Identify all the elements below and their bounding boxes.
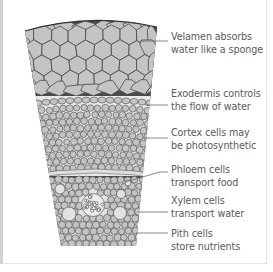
exodermis-cell [154, 101, 162, 107]
pith-cell [47, 227, 54, 234]
cortex-cell [140, 140, 147, 147]
cortex-cell [87, 105, 94, 112]
cortex-cell [31, 147, 37, 153]
cortex-cell [113, 125, 119, 131]
pith-cell [139, 241, 146, 248]
label-xylem: Xylem cells transport water [171, 195, 244, 220]
cortex-cell [137, 119, 144, 126]
pith-cell [150, 196, 156, 202]
cortex-cell [123, 158, 129, 164]
cortex-cell [46, 107, 52, 113]
cortex-cell [129, 133, 136, 140]
cortex-cell [36, 128, 42, 134]
pith-cell [33, 203, 40, 210]
label-velamen-line1: Velamen absorbs [171, 31, 263, 44]
label-phloem: Phloem cells transport food [171, 164, 238, 189]
cortex-cell [102, 104, 109, 111]
cortex-cell [116, 131, 123, 138]
cortex-cell [53, 106, 59, 112]
exodermis-cell [114, 98, 122, 104]
cortex-cell [81, 158, 88, 165]
pith-cell [128, 196, 135, 203]
pith-cell [26, 177, 33, 184]
cortex-cell [147, 154, 154, 161]
pith-cell [75, 176, 83, 184]
cortex-cell [74, 105, 80, 111]
pith-cell [75, 228, 82, 235]
cortex-cell [60, 158, 66, 164]
cortex-cell [42, 126, 49, 133]
cortex-cell [101, 157, 108, 164]
cortex-cell [67, 145, 74, 152]
cortex-cell [116, 145, 123, 152]
pith-cell [86, 183, 93, 190]
label-pith: Pith cells store nutrients [171, 228, 240, 253]
cortex-cell [105, 112, 111, 118]
pith-cell [114, 183, 121, 190]
cortex-cell [154, 155, 161, 162]
cortex-cell [154, 141, 161, 148]
cortex-cell [25, 149, 31, 155]
cortex-cell [25, 136, 31, 142]
exodermis-cell [98, 97, 106, 103]
cortex-cell [112, 152, 118, 158]
pith-cell [41, 215, 48, 222]
cortex-cell [108, 158, 115, 165]
cortex-cell [115, 105, 122, 112]
pith-cell [152, 189, 160, 197]
exodermis-cell [122, 98, 130, 104]
cortex-cell [59, 146, 65, 152]
pith-cell [69, 190, 75, 196]
exodermis-cell [82, 97, 90, 103]
pith-cell [89, 241, 96, 248]
pith-cell [83, 215, 89, 221]
exodermis-cell [34, 100, 42, 106]
cortex-cell [36, 154, 42, 160]
exodermis-cell [138, 99, 146, 105]
cortex-cell [49, 139, 56, 146]
cortex-cell [47, 159, 53, 165]
pith-cell [125, 241, 132, 248]
cortex-cell [80, 131, 86, 137]
cortex-cell [87, 144, 94, 151]
pith-cell [44, 183, 51, 190]
cortex-cell [150, 161, 157, 168]
exodermis-cell [58, 98, 66, 104]
pith-cell [47, 215, 54, 222]
cortex-cell [39, 134, 45, 140]
cortex-cell [144, 134, 150, 140]
cortex-cell [74, 158, 81, 165]
pith-cell [146, 240, 153, 247]
cortex-cell [134, 113, 141, 120]
cortex-cell [105, 124, 112, 131]
cortex-cell [122, 119, 129, 126]
pith-cell [136, 221, 143, 228]
label-velamen: Velamen absorbs water like a sponge [171, 31, 263, 56]
phloem-cell [88, 203, 91, 206]
cortex-cell [129, 105, 136, 112]
cortex-cell [105, 138, 112, 145]
pith-cell [68, 227, 75, 234]
cortex-cell [59, 132, 66, 139]
pith-cell [26, 190, 33, 197]
pith-cell [54, 216, 61, 223]
pith-cell [153, 202, 160, 209]
pith-cell [30, 209, 37, 216]
pith-cell [41, 228, 48, 235]
pith-cell [48, 202, 55, 209]
exodermis-cell [50, 99, 58, 105]
cortex-cell [108, 145, 114, 151]
pith-cell [117, 176, 124, 183]
pith-cell [128, 209, 135, 216]
cortex-cell [53, 133, 59, 139]
cortex-cell [43, 140, 49, 146]
cortex-cell [73, 131, 80, 138]
cortex-cell [57, 126, 63, 132]
pith-cell [149, 221, 156, 228]
cortex-cell [119, 112, 126, 119]
pith-cell [97, 227, 104, 234]
pith-cell [27, 216, 34, 223]
label-phloem-line2: transport food [171, 177, 238, 190]
pith-cell [41, 202, 47, 208]
cortex-cell [133, 126, 140, 133]
